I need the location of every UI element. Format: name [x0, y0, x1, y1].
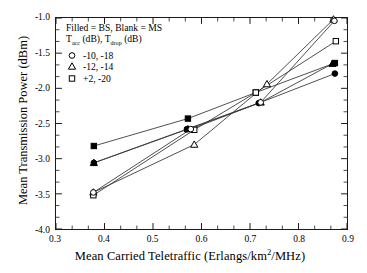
legend-t-acc-subscript: acc: [72, 40, 80, 46]
x-axis-title-pre: Mean Carried Teletraffic (Erlangs/km: [75, 249, 267, 263]
legend-heading-middle: (dB), T: [80, 33, 110, 44]
legend-entry-label: +2, -20: [83, 73, 111, 84]
data-point: [188, 126, 194, 132]
x-tick-label: 0.8: [284, 234, 314, 244]
x-tick-label: 0.4: [89, 234, 119, 244]
data-point: [91, 143, 96, 148]
data-point: [191, 141, 198, 147]
data-point: [332, 71, 338, 77]
triangle-glyph: [68, 63, 75, 69]
triangle-marker-icon: [66, 61, 80, 72]
legend-entry-square: +2, -20: [66, 73, 162, 84]
square-glyph: [69, 75, 74, 80]
data-point: [332, 18, 338, 24]
legend-entry-list: -10, -18-12, -14+2, -20: [66, 50, 162, 84]
legend-heading-filled-blank: Filled = BS, Blank = MS: [66, 22, 162, 33]
circle-marker-icon: [66, 50, 80, 61]
x-tick-label: 0.3: [40, 234, 70, 244]
figure-container: -1.0-1.5-2.0-2.5-3.0-3.5-4.0 0.30.40.50.…: [0, 0, 367, 273]
data-point: [91, 190, 97, 196]
x-tick-label: 0.6: [187, 234, 217, 244]
data-point: [185, 116, 190, 121]
y-axis-title: Mean Transmission Power (dBm): [16, 6, 31, 236]
legend-entry-triangle: -12, -14: [66, 61, 162, 72]
legend: Filled = BS, Blank = MS Tacc (dB), Tdrop…: [66, 22, 162, 84]
x-tick-label: 0.7: [235, 234, 265, 244]
legend-entry-circle: -10, -18: [66, 50, 162, 61]
x-tick-label: 0.9: [333, 234, 363, 244]
legend-heading-end: (dB): [122, 33, 142, 44]
legend-entry-label: -12, -14: [83, 61, 113, 72]
legend-t-drop-subscript: drop: [111, 40, 122, 46]
data-point: [258, 100, 264, 106]
series-markers--10-18-bs: [91, 71, 338, 166]
x-axis-title: Mean Carried Teletraffic (Erlangs/km2/MH…: [20, 247, 360, 264]
x-axis-title-post: /MHz): [271, 249, 305, 263]
circle-glyph: [69, 53, 75, 59]
legend-heading-thresholds: Tacc (dB), Tdrop (dB): [66, 33, 162, 49]
legend-entry-label: -10, -18: [83, 50, 113, 61]
square-marker-icon: [66, 73, 80, 84]
x-tick-label: 0.5: [138, 234, 168, 244]
data-point: [253, 90, 258, 95]
data-point: [333, 39, 338, 44]
